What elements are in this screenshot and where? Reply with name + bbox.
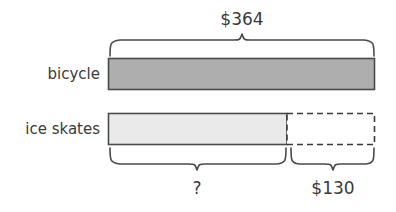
unknown-value-label: ? bbox=[147, 180, 247, 197]
tape-diagram: bicycle ice skates $364 ? $130 bbox=[0, 0, 396, 212]
known-brace bbox=[291, 148, 374, 170]
row-label-bicycle: bicycle bbox=[0, 67, 100, 82]
known-value-label: $130 bbox=[283, 180, 383, 197]
row-label-ice-skates: ice skates bbox=[0, 122, 100, 137]
ice-skates-missing-part bbox=[287, 114, 375, 145]
total-brace bbox=[110, 34, 374, 56]
unknown-brace bbox=[110, 148, 286, 170]
total-value-label: $364 bbox=[192, 11, 292, 28]
bicycle-bar bbox=[109, 59, 375, 90]
ice-skates-bar bbox=[109, 114, 288, 145]
